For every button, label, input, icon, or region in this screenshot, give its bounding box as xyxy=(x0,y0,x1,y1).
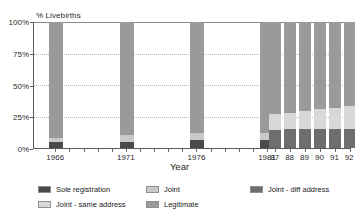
plot-inner xyxy=(34,22,351,148)
bar-segment xyxy=(49,138,63,142)
y-tick-mark xyxy=(30,86,33,87)
x-tick-mark xyxy=(182,149,183,152)
legend-label: Joint xyxy=(164,186,180,194)
bar-segment xyxy=(344,129,356,148)
x-tick-mark xyxy=(112,149,113,152)
x-tick-mark xyxy=(154,149,155,152)
x-tick-mark xyxy=(290,149,291,152)
legend-item[interactable]: Joint xyxy=(146,186,180,194)
legend-item[interactable]: Sole registration xyxy=(38,186,110,194)
x-tick-mark xyxy=(126,149,127,152)
x-tick-mark xyxy=(275,149,276,152)
bar-segment xyxy=(329,108,341,129)
plot-area xyxy=(33,22,351,149)
y-tick-mark xyxy=(30,22,33,23)
x-tick-mark xyxy=(168,149,169,152)
x-tick-mark xyxy=(350,149,351,152)
legend-label: Legitimate xyxy=(164,201,199,209)
y-tick-label: 25% xyxy=(0,113,29,122)
legend-swatch xyxy=(146,201,159,208)
bar-segment xyxy=(190,22,204,133)
x-tick-mark xyxy=(211,149,212,152)
bar-segment xyxy=(284,129,296,148)
x-tick-mark xyxy=(98,149,99,152)
bar-segment xyxy=(284,113,296,129)
bar-segment xyxy=(344,106,356,129)
x-tick-mark xyxy=(69,149,70,152)
legend-item[interactable]: Joint - same address xyxy=(38,201,126,209)
bar-segment xyxy=(299,129,311,148)
bar-segment xyxy=(269,22,281,114)
bar-92[interactable] xyxy=(344,22,356,148)
x-tick-mark xyxy=(225,149,226,152)
bar-segment xyxy=(314,22,326,109)
y-tick-label: 100% xyxy=(0,18,29,27)
x-tick-mark xyxy=(335,149,336,152)
bar-segment xyxy=(329,22,341,108)
legend-swatch xyxy=(250,186,263,193)
bar-segment xyxy=(190,133,204,141)
y-tick-mark xyxy=(30,54,33,55)
x-tick-mark xyxy=(196,149,197,152)
bar-segment xyxy=(299,111,311,129)
y-tick-mark xyxy=(30,149,33,150)
bar-1966[interactable] xyxy=(49,22,63,148)
chart-legend: Sole registrationJointJoint - diff addre… xyxy=(0,184,359,223)
x-axis-title: Year xyxy=(0,161,359,172)
x-tick-mark xyxy=(320,149,321,152)
x-tick-mark xyxy=(140,149,141,152)
bar-1971[interactable] xyxy=(120,22,134,148)
bar-1976[interactable] xyxy=(190,22,204,148)
bar-segment xyxy=(49,142,63,148)
y-tick-label: 0% xyxy=(0,145,29,154)
bar-segment xyxy=(314,129,326,148)
legend-label: Sole registration xyxy=(56,186,110,194)
bar-88[interactable] xyxy=(284,22,296,148)
bar-segment xyxy=(299,22,311,111)
x-tick-mark xyxy=(84,149,85,152)
bar-89[interactable] xyxy=(299,22,311,148)
legend-swatch xyxy=(38,201,51,208)
bar-segment xyxy=(120,142,134,148)
x-tick-mark xyxy=(239,149,240,152)
x-tick-mark xyxy=(305,149,306,152)
legend-label: Joint - diff address xyxy=(268,186,329,194)
bar-91[interactable] xyxy=(329,22,341,148)
bar-90[interactable] xyxy=(314,22,326,148)
legend-item[interactable]: Joint - diff address xyxy=(250,186,329,194)
bar-87[interactable] xyxy=(269,22,281,148)
y-tick-mark xyxy=(30,117,33,118)
x-tick-mark xyxy=(253,149,254,152)
legend-swatch xyxy=(38,186,51,193)
bar-segment xyxy=(284,22,296,113)
bar-segment xyxy=(269,130,281,148)
y-tick-label: 50% xyxy=(0,81,29,90)
legend-swatch xyxy=(146,186,159,193)
chart-container: % Livebirths 0%25%50%75%100% 19661971197… xyxy=(0,0,359,223)
bar-segment xyxy=(344,22,356,106)
bar-segment xyxy=(120,22,134,135)
y-tick-label: 75% xyxy=(0,49,29,58)
bar-segment xyxy=(120,135,134,141)
bar-segment xyxy=(314,109,326,129)
bar-segment xyxy=(49,22,63,138)
x-tick-mark xyxy=(55,149,56,152)
bar-segment xyxy=(329,129,341,148)
bar-segment xyxy=(269,114,281,130)
legend-label: Joint - same address xyxy=(56,201,126,209)
bar-segment xyxy=(190,140,204,148)
y-axis-title: % Livebirths xyxy=(36,11,81,20)
legend-item[interactable]: Legitimate xyxy=(146,201,199,209)
x-tick-mark xyxy=(267,149,268,152)
